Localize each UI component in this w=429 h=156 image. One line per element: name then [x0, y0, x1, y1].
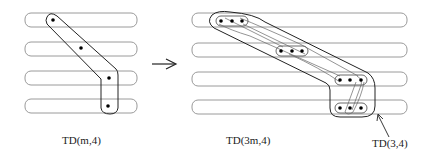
bag-bar	[25, 13, 137, 27]
left-diagram	[25, 13, 137, 114]
vertex-dot	[219, 19, 223, 23]
tree-decomposition-diagram	[0, 0, 429, 156]
vertex-dot	[359, 106, 363, 110]
vertex-dot	[348, 106, 352, 110]
bag-bar	[192, 13, 407, 27]
bag-bar	[25, 99, 137, 113]
vertex-dot	[79, 46, 83, 50]
right-label: TD(3m,4)	[226, 134, 270, 146]
inner-tube	[243, 24, 305, 54]
vertex-dot	[300, 49, 304, 53]
left-label: TD(m,4)	[62, 134, 101, 146]
vertex-dot	[107, 76, 111, 80]
bag-bar	[192, 43, 407, 57]
vertex-dot	[51, 18, 55, 22]
vertex-dot	[279, 49, 283, 53]
vertex-dot	[106, 104, 110, 108]
transform-arrow-icon	[152, 59, 176, 69]
bag-bar	[25, 71, 137, 85]
vertex-dot	[338, 106, 342, 110]
vertex-dot	[240, 19, 244, 23]
vertex-dot	[290, 49, 294, 53]
vertex-dot	[359, 78, 363, 82]
callout-arrow-icon	[377, 114, 389, 137]
vertex-dot	[348, 78, 352, 82]
vertex-dot	[230, 19, 234, 23]
vertex-dot	[338, 78, 342, 82]
right-diagram	[192, 11, 407, 137]
callout-label: TD(3,4)	[372, 137, 408, 149]
